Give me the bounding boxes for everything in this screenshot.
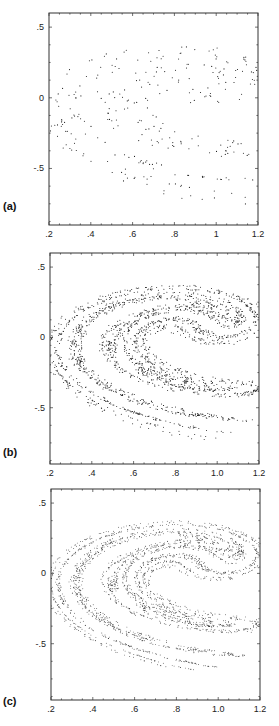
x-tick-label: 1.2 xyxy=(254,704,267,714)
y-tick-label: 0 xyxy=(41,568,46,578)
attractor-points xyxy=(51,520,261,670)
x-tick-label: .6 xyxy=(131,704,139,714)
x-tick-label: .2 xyxy=(47,704,55,714)
y-tick-label: -.5 xyxy=(35,639,46,649)
scatter-plot-c: .2.4.6.81.01.2.50-.5 xyxy=(0,0,279,726)
panel-c: (c) .2.4.6.81.01.2.50-.5 xyxy=(0,0,279,726)
x-tick-label: .4 xyxy=(89,704,97,714)
y-tick-label: .5 xyxy=(38,498,46,508)
x-tick-label: 1.0 xyxy=(212,704,225,714)
x-tick-label: .8 xyxy=(173,704,181,714)
plot-frame xyxy=(51,489,260,700)
